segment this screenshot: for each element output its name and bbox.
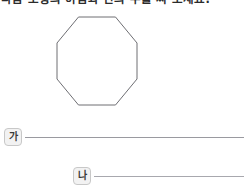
shape-figure bbox=[55, 15, 139, 107]
answer-input-b[interactable] bbox=[94, 176, 244, 177]
answer-row-b: 나 bbox=[73, 167, 244, 185]
answer-input-a[interactable] bbox=[25, 137, 244, 138]
question-text: 다음 도형의 이름과 변의 수를 써 보세요. bbox=[1, 0, 243, 6]
question-strip: 다음 도형의 이름과 변의 수를 써 보세요. bbox=[0, 0, 244, 7]
answer-row-a: 가 bbox=[4, 128, 244, 146]
octagon-icon bbox=[55, 15, 139, 107]
answer-label-badge-a: 가 bbox=[4, 128, 22, 146]
answer-label-badge-b: 나 bbox=[73, 167, 91, 185]
